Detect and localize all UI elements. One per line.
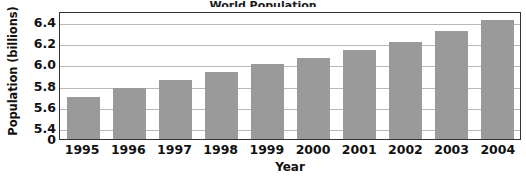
y-tick-label: 5.4 bbox=[34, 123, 56, 135]
bar bbox=[67, 97, 100, 139]
y-tick-label: 5.6 bbox=[34, 102, 56, 114]
bar bbox=[297, 58, 330, 139]
x-tick-label: 1998 bbox=[198, 142, 244, 157]
x-tick-label: 1997 bbox=[151, 142, 197, 157]
y-axis-tick-labels: 05.45.65.86.06.26.4 bbox=[22, 0, 56, 183]
y-tick-label: 6.2 bbox=[34, 38, 56, 50]
x-axis-title: Year bbox=[59, 160, 521, 174]
x-tick-label: 2000 bbox=[290, 142, 336, 157]
x-axis-tick-labels: 1995199619971998199920002001200220032004 bbox=[59, 142, 521, 160]
x-tick-label: 1995 bbox=[59, 142, 105, 157]
x-tick-label: 2003 bbox=[429, 142, 475, 157]
y-axis-title: Population (billions) bbox=[6, 6, 20, 136]
bar bbox=[113, 88, 146, 139]
bar-chart-figure: World Population Population (billions) 0… bbox=[0, 0, 526, 183]
bar bbox=[205, 72, 238, 139]
x-tick-label: 2002 bbox=[382, 142, 428, 157]
x-tick-label: 1999 bbox=[244, 142, 290, 157]
bar bbox=[159, 80, 192, 139]
bar bbox=[435, 31, 468, 139]
bar-series bbox=[60, 13, 520, 139]
plot-area bbox=[59, 12, 521, 140]
bar bbox=[389, 42, 422, 139]
y-tick-label: 5.8 bbox=[34, 81, 56, 93]
bar bbox=[343, 50, 376, 139]
y-tick-label: 6.4 bbox=[34, 17, 56, 29]
x-tick-label: 2001 bbox=[336, 142, 382, 157]
x-tick-label: 2004 bbox=[475, 142, 521, 157]
bar bbox=[481, 20, 514, 139]
chart-title-truncated: World Population bbox=[0, 0, 526, 7]
bar bbox=[251, 64, 284, 139]
x-tick-label: 1996 bbox=[105, 142, 151, 157]
y-tick-label: 6.0 bbox=[34, 59, 56, 71]
